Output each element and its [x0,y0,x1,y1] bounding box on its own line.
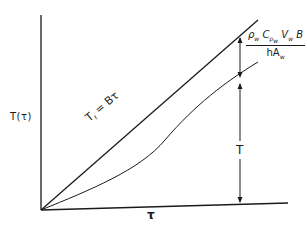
response-label: T [236,141,243,159]
gap-formula: ρw Cpw Vw B hAw [246,29,305,60]
linear-ramp-line [41,20,258,210]
x-axis [41,203,288,210]
gap-formula-numerator: ρw Cpw Vw B [246,29,305,46]
x-axis-label: τ [147,208,155,222]
arrow-down-icon [238,197,243,203]
y-axis-label: T(τ) [10,111,32,122]
gap-formula-denominator: hAw [246,46,305,60]
arrow-up-icon [238,83,243,89]
response-curve [41,62,258,210]
